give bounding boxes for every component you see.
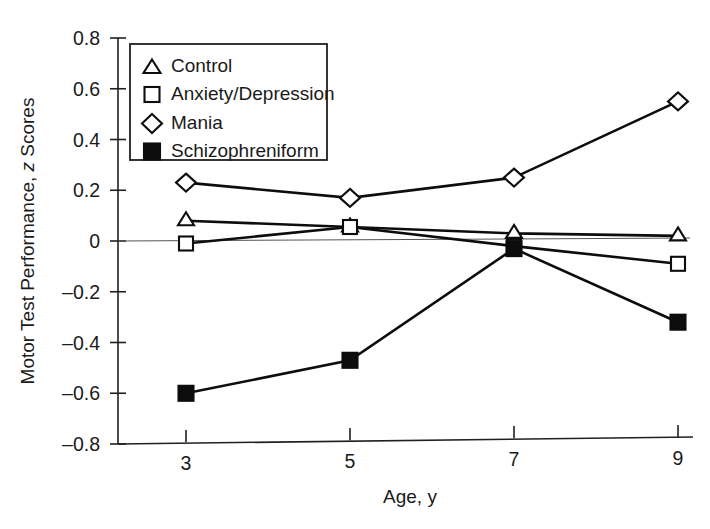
y-tick-label: –0.4 <box>62 332 100 354</box>
markers-anxiety-depression <box>179 220 685 271</box>
legend-item-mania[interactable]: Mania <box>142 112 223 133</box>
markers-schizophreniform <box>179 241 686 401</box>
legend-item-schizophreniform[interactable]: Schizophreniform <box>144 140 319 161</box>
x-axis-title: Age, y <box>383 486 437 507</box>
series-line-schizophreniform <box>186 249 678 394</box>
x-tick-label: 7 <box>509 448 520 470</box>
legend-item-label: Schizophreniform <box>171 140 319 161</box>
x-tick-label: 9 <box>673 447 684 469</box>
line-chart-canvas: 0.8 0.6 0.4 0.2 0 –0.2 –0.4 –0.6 –0.8 3 … <box>0 0 710 529</box>
square-open-icon <box>145 87 160 102</box>
x-tick-label: 3 <box>181 452 192 474</box>
y-tick-label: –0.8 <box>62 433 100 455</box>
chart-figure: 0.8 0.6 0.4 0.2 0 –0.2 –0.4 –0.6 –0.8 3 … <box>0 0 710 529</box>
chart-legend: Control Anxiety/Depression Mania Schizop… <box>130 44 335 161</box>
series-line-anxiety-depression <box>186 227 678 264</box>
legend-item-anxiety-depression[interactable]: Anxiety/Depression <box>145 83 335 104</box>
series-line-control <box>186 221 678 236</box>
y-tick-label: –0.6 <box>62 382 100 404</box>
x-tick-label: 5 <box>345 450 356 472</box>
legend-item-label: Anxiety/Depression <box>171 83 335 104</box>
x-axis-line <box>118 437 693 444</box>
legend-item-label: Mania <box>171 112 223 133</box>
y-tick-label: 0.4 <box>73 129 100 151</box>
y-tick-label: 0 <box>89 230 100 252</box>
y-tick-label: –0.2 <box>62 281 100 303</box>
y-axis-tick-labels: 0.8 0.6 0.4 0.2 0 –0.2 –0.4 –0.6 –0.8 <box>62 27 100 455</box>
y-tick-label: 0.6 <box>73 78 100 100</box>
legend-item-label: Control <box>171 55 232 76</box>
y-tick-label: 0.2 <box>73 179 100 201</box>
x-axis-tick-labels: 3 5 7 9 <box>181 447 684 474</box>
square-filled-icon <box>144 144 160 160</box>
y-axis-title: Motor Test Performance, z Scores <box>17 98 38 385</box>
y-tick-label: 0.8 <box>73 27 100 49</box>
